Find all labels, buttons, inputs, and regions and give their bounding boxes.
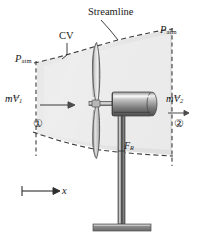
wind-turbine-control-volume-figure: Streamline CV Patm Patm m V 1 m: [0, 0, 200, 252]
x-axis-indicator: [22, 186, 60, 196]
station-2-label: ②: [174, 118, 184, 129]
reaction-force-label: FR: [124, 141, 134, 152]
outlet-momentum-label: m V 2: [166, 94, 183, 105]
support-tower: [118, 116, 125, 224]
hub-boss: [92, 100, 100, 107]
figure-canvas: [0, 0, 200, 252]
nacelle-cylinder: [112, 92, 157, 116]
station-1-label: ①: [33, 118, 43, 129]
mdot-2-symbol-group: m: [166, 94, 174, 105]
x-axis-label: x: [62, 186, 67, 197]
velocity-2-symbol: V: [174, 93, 180, 104]
base-plate: [93, 224, 151, 231]
streamline-leader-icon: [101, 20, 118, 40]
p-atm-right-label: Patm: [160, 25, 177, 36]
cv-label: CV: [59, 31, 74, 42]
p-atm-right-subscript: atm: [166, 28, 176, 35]
force-subscript: R: [130, 144, 134, 151]
velocity-2-symbol-group: V: [174, 94, 180, 105]
mdot-1-symbol-group: m: [5, 94, 13, 105]
velocity-1-symbol-group: V: [13, 94, 19, 105]
velocity-1-symbol: V: [13, 93, 19, 104]
p-atm-left-label: Patm: [15, 54, 32, 65]
velocity-2-subscript: 2: [180, 97, 183, 104]
inlet-momentum-label: m V 1: [5, 94, 22, 105]
outlet-arrow-icon: [184, 110, 189, 115]
x-axis-arrow-icon: [53, 188, 60, 195]
velocity-1-subscript: 1: [19, 97, 22, 104]
p-atm-left-subscript: atm: [21, 57, 31, 64]
streamline-label: Streamline: [88, 7, 134, 18]
mdot-1-symbol: m: [5, 93, 13, 104]
mdot-2-symbol: m: [166, 93, 174, 104]
